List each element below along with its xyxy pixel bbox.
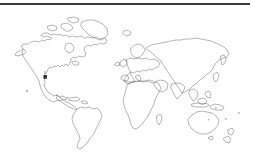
new-zealand-north-outline [228, 128, 234, 135]
hawaii-dot [26, 90, 28, 92]
asia-outline [146, 38, 229, 93]
north-america-outline [21, 33, 107, 102]
new-zealand-south-outline [224, 136, 231, 143]
cuba-outline [69, 97, 80, 101]
iberian-peninsula-outline [121, 75, 129, 81]
greenland-outline [81, 20, 108, 40]
ireland-outline [115, 62, 120, 66]
new-guinea-outline [210, 104, 224, 110]
location-marker[interactable] [44, 75, 47, 79]
world-map-container[interactable] [0, 8, 255, 154]
india-outline [171, 83, 185, 99]
great-lakes-outline [72, 61, 79, 65]
japan-outline [213, 72, 219, 82]
italy-outline [136, 75, 141, 81]
australia-outline [188, 111, 219, 134]
horizontal-rule [0, 3, 250, 5]
alaska-outline [15, 49, 26, 56]
philippines-outline [205, 91, 211, 98]
british-isles-outline [120, 59, 127, 67]
pacific-island-d-dot [208, 119, 209, 120]
hudson-bay-outline [65, 43, 74, 53]
borneo-outline [198, 98, 207, 104]
kamchatka-outline [221, 55, 226, 65]
pacific-island-b-dot [225, 118, 227, 120]
pacific-island-a-dot [215, 107, 217, 109]
arabian-peninsula-outline [154, 80, 168, 92]
hispaniola-outline [82, 101, 88, 104]
world-map-svg[interactable] [0, 8, 255, 154]
ellesmere-island-outline [68, 17, 79, 23]
madagascar-outline [157, 114, 162, 125]
southeast-asia-outline [189, 89, 198, 101]
south-america-outline [72, 107, 102, 149]
scandinavia-outline [131, 44, 145, 58]
tasmania-outline [209, 136, 213, 140]
africa-outline [123, 81, 161, 129]
iceland-outline [123, 30, 131, 36]
victoria-island-outline [48, 25, 57, 31]
europe-outline [124, 58, 160, 84]
pacific-island-c-dot [238, 112, 240, 114]
baffin-island-outline [61, 23, 73, 31]
page-canvas [0, 0, 255, 154]
